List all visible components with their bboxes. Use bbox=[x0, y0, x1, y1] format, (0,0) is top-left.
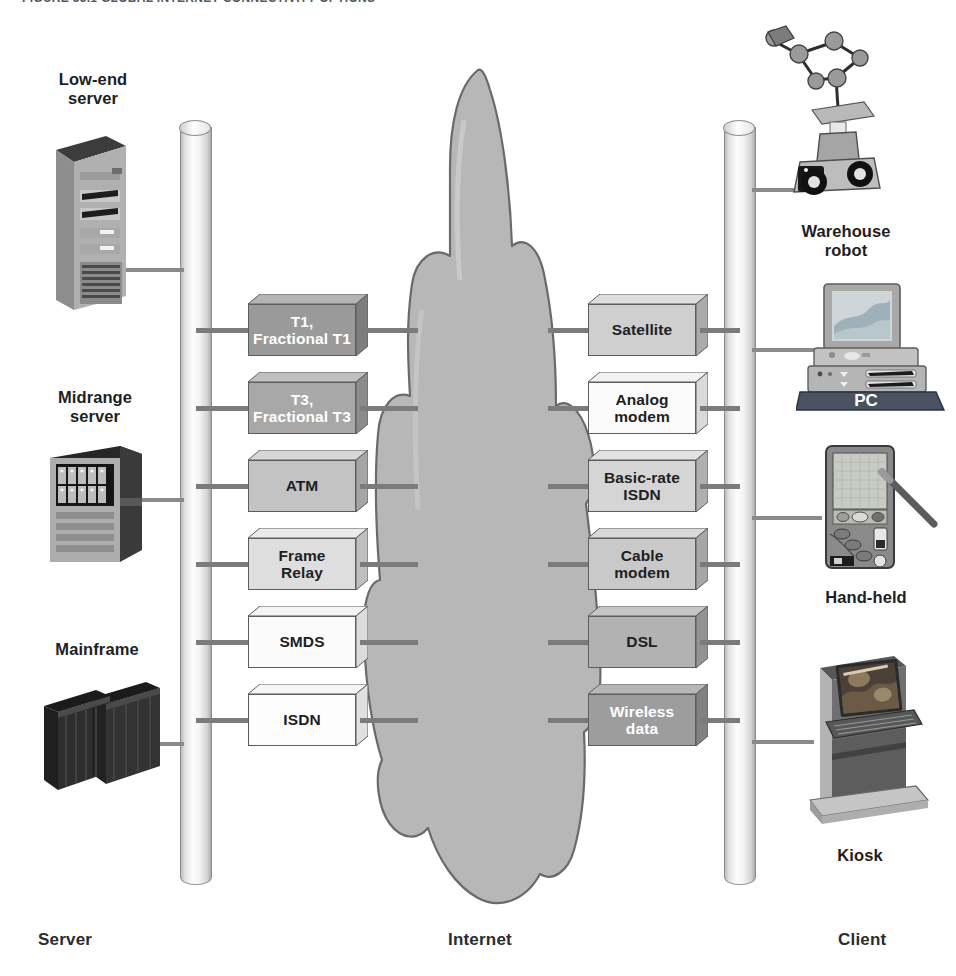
wire-smds-cloud bbox=[360, 640, 418, 645]
label-line-1: Hand-held bbox=[786, 588, 946, 607]
link-box-satellite[interactable]: Satellite bbox=[588, 294, 708, 356]
link-box-isdn[interactable]: ISDN bbox=[248, 684, 368, 746]
link-box-cable[interactable]: Cablemodem bbox=[588, 528, 708, 590]
server-bus-cylinder bbox=[180, 120, 210, 885]
wire-frame-bus bbox=[196, 562, 248, 567]
axis-label-internet: Internet bbox=[448, 930, 512, 950]
link-box-label-line-2: Fractional T1 bbox=[253, 330, 351, 347]
bus-tube-top-cap bbox=[179, 120, 211, 136]
wire-cable-bus bbox=[700, 562, 740, 567]
link-box-label-line-1: Cable bbox=[614, 547, 670, 564]
wire-t3-bus bbox=[196, 406, 248, 411]
link-box-label-line-1: T3, bbox=[253, 391, 351, 408]
link-box-atm[interactable]: ATM bbox=[248, 450, 368, 512]
link-box-face: FrameRelay bbox=[248, 538, 356, 590]
link-box-label-line-2: modem bbox=[614, 408, 670, 425]
link-box-smds[interactable]: SMDS bbox=[248, 606, 368, 668]
link-box-label-line-1: DSL bbox=[626, 633, 657, 650]
wire-dsl-bus bbox=[700, 640, 740, 645]
link-box-wireless[interactable]: Wirelessdata bbox=[588, 684, 708, 746]
link-box-face: Wirelessdata bbox=[588, 694, 696, 746]
client-bus-cylinder bbox=[724, 120, 754, 885]
link-box-t1[interactable]: T1,Fractional T1 bbox=[248, 294, 368, 356]
device-label-mainframe: Mainframe bbox=[22, 640, 172, 659]
wire-t1-cloud bbox=[360, 328, 418, 333]
link-box-dsl[interactable]: DSL bbox=[588, 606, 708, 668]
wire-analog-cloud bbox=[548, 406, 588, 411]
pc-inline-label: PC bbox=[854, 391, 878, 410]
device-label-lowend-server: Low-end server bbox=[28, 70, 158, 109]
link-box-label-line-1: ATM bbox=[286, 477, 319, 494]
wire-atm-bus bbox=[196, 484, 248, 489]
rack-server-icon bbox=[44, 440, 148, 570]
label-line-1: Midrange bbox=[20, 388, 170, 407]
wire-isdn-cloud bbox=[360, 718, 418, 723]
link-box-t3[interactable]: T3,Fractional T3 bbox=[248, 372, 368, 434]
link-box-bri-isdn[interactable]: Basic-rateISDN bbox=[588, 450, 708, 512]
link-box-face: T3,Fractional T3 bbox=[248, 382, 356, 434]
bus-tube-body bbox=[724, 127, 756, 885]
link-box-face: Cablemodem bbox=[588, 538, 696, 590]
device-label-warehouse-robot: Warehouse robot bbox=[766, 222, 926, 261]
wire-wireless-bus bbox=[700, 718, 740, 723]
warehouse-robot-icon bbox=[764, 24, 904, 204]
link-box-label-line-1: Analog bbox=[614, 391, 670, 408]
link-box-face: Analogmodem bbox=[588, 382, 696, 434]
wire-satellite-cloud bbox=[548, 328, 588, 333]
link-box-label-line-2: data bbox=[610, 720, 674, 737]
link-box-face: Satellite bbox=[588, 304, 696, 356]
link-box-face: ATM bbox=[248, 460, 356, 512]
wire-smds-bus bbox=[196, 640, 248, 645]
link-box-label-line-2: ISDN bbox=[604, 486, 680, 503]
link-box-analog[interactable]: Analogmodem bbox=[588, 372, 708, 434]
wire-t1-bus bbox=[196, 328, 248, 333]
label-line-1: Low-end bbox=[28, 70, 158, 89]
link-box-label-line-1: ISDN bbox=[283, 711, 320, 728]
wire-isdn-bus bbox=[196, 718, 248, 723]
label-line-2: server bbox=[28, 89, 158, 108]
wire-analog-bus bbox=[700, 406, 740, 411]
wire-bri-isdn-cloud bbox=[548, 484, 588, 489]
link-box-label-line-1: Basic-rate bbox=[604, 469, 680, 486]
link-box-label-line-1: Satellite bbox=[612, 321, 672, 338]
label-line-2: server bbox=[20, 407, 170, 426]
bus-tube-top-cap bbox=[723, 120, 755, 136]
link-box-label-line-2: Relay bbox=[278, 564, 325, 581]
link-box-frame[interactable]: FrameRelay bbox=[248, 528, 368, 590]
figure-caption: FIGURE 33.1 GLOBAL INTERNET CONNECTIVITY… bbox=[22, 0, 442, 5]
wire-atm-cloud bbox=[360, 484, 418, 489]
kiosk-icon bbox=[790, 644, 940, 844]
bus-tube-body bbox=[180, 127, 212, 885]
link-box-face: T1,Fractional T1 bbox=[248, 304, 356, 356]
axis-label-server: Server bbox=[38, 930, 92, 950]
wire-frame-cloud bbox=[360, 562, 418, 567]
link-box-label-line-1: SMDS bbox=[279, 633, 324, 650]
label-line-2: robot bbox=[766, 241, 926, 260]
axis-label-client: Client bbox=[838, 930, 886, 950]
tower-server-icon bbox=[48, 128, 130, 318]
device-label-handheld: Hand-held bbox=[786, 588, 946, 607]
link-box-label-line-1: T1, bbox=[253, 313, 351, 330]
wire-satellite-bus bbox=[700, 328, 740, 333]
wire-t3-cloud bbox=[360, 406, 418, 411]
wire-wireless-cloud bbox=[548, 718, 588, 723]
link-box-label-line-1: Frame bbox=[278, 547, 325, 564]
handheld-pda-icon bbox=[806, 444, 946, 584]
label-line-1: Mainframe bbox=[22, 640, 172, 659]
desktop-pc-icon: PC bbox=[796, 282, 946, 412]
device-label-kiosk: Kiosk bbox=[790, 846, 930, 865]
label-line-1: Warehouse bbox=[766, 222, 926, 241]
link-box-face: Basic-rateISDN bbox=[588, 460, 696, 512]
link-box-label-line-1: Wireless bbox=[610, 703, 674, 720]
device-label-midrange-server: Midrange server bbox=[20, 388, 170, 427]
label-line-1: Kiosk bbox=[790, 846, 930, 865]
wire-bri-isdn-bus bbox=[700, 484, 740, 489]
link-box-label-line-2: Fractional T3 bbox=[253, 408, 351, 425]
link-box-face: DSL bbox=[588, 616, 696, 668]
link-box-label-line-2: modem bbox=[614, 564, 670, 581]
link-box-face: ISDN bbox=[248, 694, 356, 746]
mainframe-icon bbox=[40, 672, 164, 802]
network-diagram: FIGURE 33.1 GLOBAL INTERNET CONNECTIVITY… bbox=[0, 0, 956, 976]
wire-dsl-cloud bbox=[548, 640, 588, 645]
wire-cable-cloud bbox=[548, 562, 588, 567]
